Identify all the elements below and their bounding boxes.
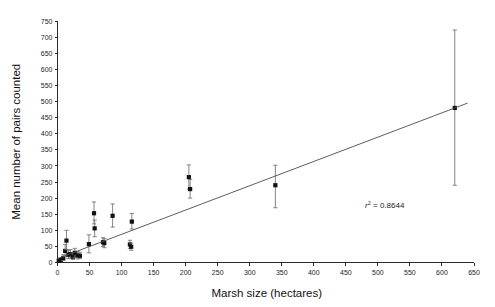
chart-figure: 0501001502002503003504004505005506006507… bbox=[0, 0, 495, 307]
x-tick-label: 650 bbox=[468, 269, 480, 276]
y-tick-label: 500 bbox=[41, 98, 53, 105]
data-point-marker bbox=[92, 211, 96, 215]
x-axis: 050100150200250300350400450500550600650 bbox=[56, 263, 480, 276]
data-point-marker bbox=[130, 220, 134, 224]
data-point-marker bbox=[129, 245, 133, 249]
data-point-marker bbox=[111, 214, 115, 218]
x-tick-label: 0 bbox=[56, 269, 60, 276]
data-point bbox=[130, 214, 134, 229]
data-point-marker bbox=[273, 183, 277, 187]
x-tick-label: 500 bbox=[372, 269, 384, 276]
data-point bbox=[93, 220, 97, 237]
x-tick-label: 300 bbox=[244, 269, 256, 276]
y-tick-label: 50 bbox=[45, 243, 53, 250]
x-tick-label: 350 bbox=[276, 269, 288, 276]
data-point bbox=[78, 252, 82, 258]
x-tick-label: 50 bbox=[86, 269, 94, 276]
scatter-plot-canvas: 0501001502002503003504004505005506006507… bbox=[0, 0, 495, 307]
y-tick-label: 300 bbox=[41, 163, 53, 170]
data-point-marker bbox=[187, 175, 191, 179]
data-point-marker bbox=[93, 226, 97, 230]
x-axis-title: Marsh size (hectares) bbox=[211, 287, 322, 299]
y-tick-label: 450 bbox=[41, 114, 53, 121]
x-tick-label: 400 bbox=[308, 269, 320, 276]
y-tick-label: 100 bbox=[41, 227, 53, 234]
y-tick-label: 350 bbox=[41, 146, 53, 153]
y-tick-label: 600 bbox=[41, 66, 53, 73]
data-point bbox=[92, 202, 96, 224]
y-axis: 0501001502002503003504004505005506006507… bbox=[41, 18, 58, 267]
y-tick-label: 750 bbox=[41, 18, 53, 25]
data-point bbox=[87, 235, 91, 253]
data-point bbox=[273, 165, 277, 208]
r-value: = 0.8644 bbox=[371, 201, 405, 210]
y-tick-label: 250 bbox=[41, 179, 53, 186]
x-axis-ticks: 050100150200250300350400450500550600650 bbox=[56, 263, 480, 276]
x-tick-label: 200 bbox=[180, 269, 192, 276]
y-axis-title: Mean number of pairs counted bbox=[10, 64, 22, 220]
y-tick-label: 700 bbox=[41, 34, 53, 41]
y-tick-label: 400 bbox=[41, 130, 53, 137]
y-tick-label: 150 bbox=[41, 211, 53, 218]
x-tick-label: 450 bbox=[340, 269, 352, 276]
y-tick-label: 200 bbox=[41, 195, 53, 202]
x-tick-label: 150 bbox=[148, 269, 160, 276]
x-tick-label: 250 bbox=[212, 269, 224, 276]
y-tick-label: 550 bbox=[41, 82, 53, 89]
data-point bbox=[111, 204, 115, 227]
r-squared-annotation: r2 = 0.8644 bbox=[365, 200, 405, 210]
y-tick-label: 650 bbox=[41, 50, 53, 57]
y-axis-ticks: 0501001502002503003504004505005506006507… bbox=[41, 18, 58, 267]
x-tick-label: 600 bbox=[436, 269, 448, 276]
data-point-marker bbox=[87, 242, 91, 246]
data-series-group bbox=[57, 30, 457, 263]
linear-regression-line bbox=[58, 103, 468, 259]
x-tick-label: 550 bbox=[404, 269, 416, 276]
data-point-marker bbox=[188, 187, 192, 191]
x-tick-label: 100 bbox=[116, 269, 128, 276]
data-point-marker bbox=[71, 255, 75, 259]
data-point-marker bbox=[78, 254, 82, 258]
y-tick-label: 0 bbox=[49, 259, 53, 266]
data-point-marker bbox=[64, 239, 68, 243]
